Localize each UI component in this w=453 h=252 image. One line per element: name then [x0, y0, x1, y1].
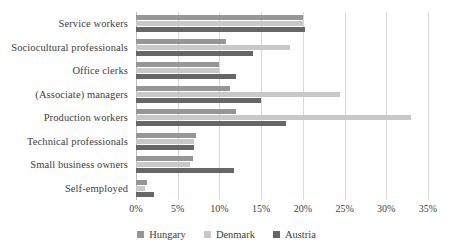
- bar-denmark: [136, 186, 145, 191]
- bar-austria: [136, 168, 234, 173]
- y-axis-label: Self-employed: [0, 177, 132, 201]
- x-axis-tick: 0%: [129, 203, 142, 214]
- bar-group: [136, 130, 428, 154]
- x-axis-tick: 30%: [377, 203, 395, 214]
- bar-hungary: [136, 109, 236, 114]
- bar-denmark: [136, 21, 303, 26]
- bar-hungary: [136, 15, 303, 20]
- legend-item-austria[interactable]: Austria: [273, 229, 316, 240]
- bar-denmark: [136, 115, 411, 120]
- x-axis-tick: 5%: [171, 203, 184, 214]
- x-axis-tick: 10%: [210, 203, 228, 214]
- bar-austria: [136, 74, 236, 79]
- y-axis-label: Sociocultural professionals: [0, 36, 132, 60]
- y-axis-label: Production workers: [0, 106, 132, 130]
- bar-group: [136, 106, 428, 130]
- x-axis-tick: 15%: [252, 203, 270, 214]
- bar-chart: Service workersSociocultural professiona…: [0, 0, 453, 252]
- y-axis-label: (Associate) managers: [0, 83, 132, 107]
- y-axis-label: Service workers: [0, 12, 132, 36]
- legend-swatch-icon: [273, 231, 280, 238]
- legend-label: Austria: [285, 229, 316, 240]
- bar-group: [136, 12, 428, 36]
- bar-hungary: [136, 86, 230, 91]
- y-axis-label: Small business owners: [0, 153, 132, 177]
- plot-area: [136, 12, 428, 200]
- y-axis-label: Office clerks: [0, 59, 132, 83]
- bar-groups: [136, 12, 428, 200]
- legend-item-hungary[interactable]: Hungary: [137, 229, 186, 240]
- gridline-35%: [428, 12, 429, 200]
- bar-group: [136, 36, 428, 60]
- bar-hungary: [136, 133, 196, 138]
- bar-hungary: [136, 180, 147, 185]
- x-axis-tick: 35%: [419, 203, 437, 214]
- bar-group: [136, 59, 428, 83]
- bar-austria: [136, 27, 305, 32]
- bar-group: [136, 83, 428, 107]
- bar-austria: [136, 51, 253, 56]
- legend-swatch-icon: [204, 231, 211, 238]
- bar-group: [136, 177, 428, 201]
- bar-hungary: [136, 39, 226, 44]
- bar-denmark: [136, 139, 194, 144]
- bar-group: [136, 153, 428, 177]
- bar-austria: [136, 121, 286, 126]
- y-axis-labels: Service workersSociocultural professiona…: [0, 12, 132, 200]
- legend-label: Hungary: [149, 229, 186, 240]
- legend-swatch-icon: [137, 231, 144, 238]
- bar-denmark: [136, 45, 290, 50]
- legend: HungaryDenmarkAustria: [0, 229, 453, 240]
- x-axis-tick: 25%: [335, 203, 353, 214]
- bar-hungary: [136, 62, 219, 67]
- x-axis-tick: 20%: [294, 203, 312, 214]
- bar-hungary: [136, 156, 193, 161]
- legend-item-denmark[interactable]: Denmark: [204, 229, 255, 240]
- bar-austria: [136, 192, 154, 197]
- y-axis-label: Technical professionals: [0, 130, 132, 154]
- legend-label: Denmark: [216, 229, 255, 240]
- bar-austria: [136, 145, 194, 150]
- bar-denmark: [136, 92, 340, 97]
- x-axis-labels: 0%5%10%15%20%25%30%35%: [136, 203, 428, 219]
- bar-denmark: [136, 162, 190, 167]
- bar-austria: [136, 98, 261, 103]
- bar-denmark: [136, 68, 219, 73]
